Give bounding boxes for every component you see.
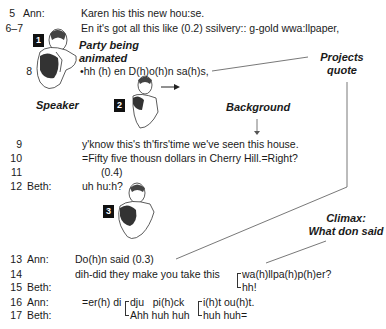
utterance: •hh (h) en D(h)o(h)n sa(h)s, — [80, 65, 209, 77]
line-number: 12 — [0, 180, 22, 192]
speaker-figure-2-icon — [133, 76, 158, 128]
overlap-utterance: wa(h)llpa(h)p(h)er? — [242, 268, 331, 280]
line-number: 9 — [0, 138, 22, 150]
badge-2: 2 — [114, 99, 125, 112]
label-party-animated: Party being animated — [79, 39, 139, 65]
label-background: Background — [226, 101, 290, 114]
line-number: 10 — [0, 152, 22, 164]
utterance: dih-did they make you take this — [75, 268, 220, 280]
utterance: (0.4) — [101, 166, 123, 178]
label-climax: Climax: What don said — [308, 212, 384, 238]
line-number: 6–7 — [0, 22, 23, 34]
line-number: 16 — [0, 296, 22, 308]
overlap-bracket — [237, 273, 241, 288]
utterance: =er(h) di — [82, 296, 121, 308]
utterance: y'know this's th'firs'time we've seen th… — [82, 138, 299, 150]
speaker-name: Beth: — [27, 180, 52, 192]
label-speaker: Speaker — [36, 99, 79, 112]
overlap-utterance: i(h)t ou(h)t. — [203, 296, 254, 308]
utterance: =Fifty five thousn dollars in Cherry Hil… — [82, 152, 298, 164]
line-number: 8 — [6, 65, 32, 77]
speaker-name: Ann: — [23, 7, 45, 19]
speaker-name: Ann: — [27, 253, 49, 265]
utterance: Karen his this new hou:se. — [81, 7, 204, 19]
badge-1: 1 — [33, 34, 44, 47]
overlap-utterance: dju pi(h)ck — [130, 296, 184, 308]
line-number: 17 — [0, 309, 22, 321]
speaker-name: Beth: — [27, 309, 52, 321]
speaker-name: Ann: — [27, 296, 49, 308]
overlap-utterance: huh huh= — [203, 309, 247, 321]
line-number: 15 — [0, 281, 22, 293]
overlap-bracket — [125, 301, 129, 316]
speaker-figure-3-icon — [119, 183, 154, 239]
speaker-name: Beth: — [27, 281, 52, 293]
line-number: 13 — [0, 253, 22, 265]
utterance: uh hu:h? — [82, 180, 123, 192]
label-projects-quote: Projects quote — [312, 51, 372, 77]
utterance: Do(h)n said (0.3) — [75, 253, 154, 265]
utterance: En it's got all this like (0.2) ssilvery… — [81, 22, 339, 34]
badge-3: 3 — [103, 205, 114, 218]
line-number: 11 — [0, 166, 22, 178]
overlap-bracket — [198, 301, 202, 316]
overlap-utterance: Ahh huh huh — [130, 309, 190, 321]
overlap-utterance: hh! — [242, 281, 257, 293]
line-number: 5 — [0, 7, 15, 19]
line-number: 14 — [0, 268, 22, 280]
